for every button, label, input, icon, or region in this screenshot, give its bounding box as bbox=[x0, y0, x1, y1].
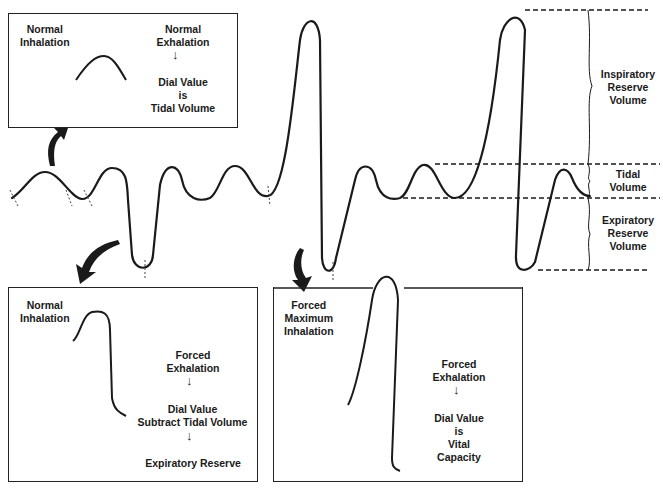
br-step1-label: ForcedExhalation bbox=[424, 358, 494, 384]
arrow-down-left-icon bbox=[76, 240, 120, 284]
volume-braces bbox=[588, 10, 592, 270]
top-right-label: NormalExhalation bbox=[148, 23, 218, 49]
tick-marks bbox=[10, 186, 333, 280]
bl-arrow2-icon: ↓ bbox=[186, 429, 193, 442]
bl-arrow1-icon: ↓ bbox=[186, 374, 193, 387]
arrow-down-icon bbox=[292, 248, 312, 292]
curved-arrows bbox=[48, 128, 312, 292]
arrow-up-icon bbox=[48, 128, 68, 166]
br-arrow-icon: ↓ bbox=[453, 383, 460, 396]
bl-step3-label: Expiratory Reserve bbox=[138, 457, 248, 470]
tv-label: TidalVolume bbox=[596, 168, 660, 194]
br-step2-label: Dial ValueisVitalCapacity bbox=[424, 412, 494, 464]
bl-step2-label: Dial ValueSubtract Tidal Volume bbox=[130, 403, 255, 429]
top-arrow-icon: ↓ bbox=[172, 48, 179, 61]
br-left-label: ForcedMaximumInhalation bbox=[284, 299, 334, 338]
erv-label: ExpiratoryReserveVolume bbox=[596, 214, 660, 253]
top-left-label: NormalInhalation bbox=[20, 23, 70, 49]
irv-label: InspiratoryReserveVolume bbox=[596, 68, 660, 107]
bl-left-label: NormalInhalation bbox=[20, 299, 70, 325]
bl-step1-label: ForcedExhalation bbox=[158, 349, 228, 375]
top-result-label: Dial ValueisTidal Volume bbox=[140, 76, 226, 115]
